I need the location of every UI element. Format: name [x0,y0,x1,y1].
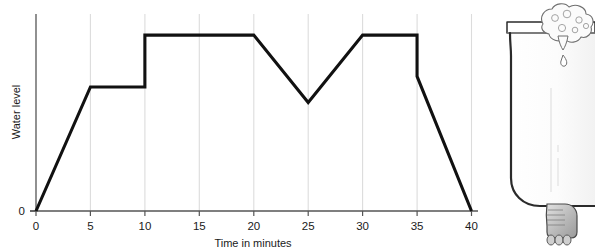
claw-foot [546,204,577,238]
x-tick-label-0: 0 [33,220,39,232]
x-axis-title: Time in minutes [214,237,292,249]
claw-foot-toes [547,235,571,245]
x-tick-labels: 0 5 10 15 20 25 30 35 40 [33,220,478,232]
x-tick-label-10: 10 [139,220,152,232]
x-tick-label-20: 20 [247,220,260,232]
x-tick-label-15: 15 [193,220,206,232]
toe-2 [555,235,563,245]
x-tick-label-25: 25 [302,220,315,232]
figure-root: 0 5 10 15 20 25 30 35 40 0 Time in minut… [0,0,595,251]
x-tick-label-35: 35 [411,220,424,232]
x-tick-marks [36,211,472,216]
x-tick-label-5: 5 [87,220,93,232]
x-tick-label-40: 40 [465,220,478,232]
water-level-chart: 0 5 10 15 20 25 30 35 40 0 Time in minut… [0,0,500,251]
toe-3 [563,235,571,245]
toe-1 [547,235,555,245]
bathtub-svg [495,0,595,251]
x-tick-label-30: 30 [356,220,369,232]
y-tick-label-0: 0 [19,205,25,217]
y-axis-title: Water level [10,85,22,140]
gridlines [90,14,471,211]
bathtub-illustration [495,0,595,251]
chart-svg: 0 5 10 15 20 25 30 35 40 0 Time in minut… [0,0,500,251]
